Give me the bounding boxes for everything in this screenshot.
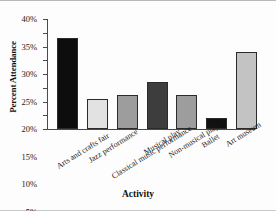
y-axis-tick-label: 15% [21, 152, 37, 162]
x-axis-category-labels: Arts and crafts fairJazz performanceClas… [47, 131, 276, 193]
x-axis-title: Activity [0, 189, 276, 199]
y-axis-tick-label: 35% [21, 42, 37, 52]
bar [236, 52, 257, 129]
y-axis-tick: 40% [43, 19, 47, 20]
y-axis-title: Percent Attendance [8, 17, 18, 137]
y-axis-tick-label: 5% [26, 207, 37, 212]
y-axis-tick: 15% [43, 88, 47, 89]
y-axis-tick: 30% [43, 47, 47, 48]
y-axis-tick-label: 40% [21, 14, 37, 24]
x-axis-line [47, 129, 255, 130]
y-axis-tick: 25% [43, 60, 47, 61]
bar [117, 95, 138, 129]
y-axis-tick: 5% [43, 115, 47, 116]
y-axis-tick-label: 20% [21, 124, 37, 134]
y-axis-tick: 10% [43, 102, 47, 103]
bar-chart-figure: Percent Attendance 0%5%10%15%20%25%30%35… [0, 0, 276, 211]
y-axis-tick-label: 30% [21, 69, 37, 79]
y-axis-tick: 0% [43, 129, 47, 130]
bar [57, 38, 78, 129]
y-axis-tick-label: 25% [21, 97, 37, 107]
y-axis-tick: 20% [43, 74, 47, 75]
y-axis-line [47, 19, 48, 130]
plot-area: 0%5%10%15%20%25%30%35%40% [47, 19, 255, 129]
bar [87, 99, 108, 129]
y-axis-tick-label: 10% [21, 179, 37, 189]
bar [147, 82, 168, 129]
y-axis-tick: 35% [43, 33, 47, 34]
